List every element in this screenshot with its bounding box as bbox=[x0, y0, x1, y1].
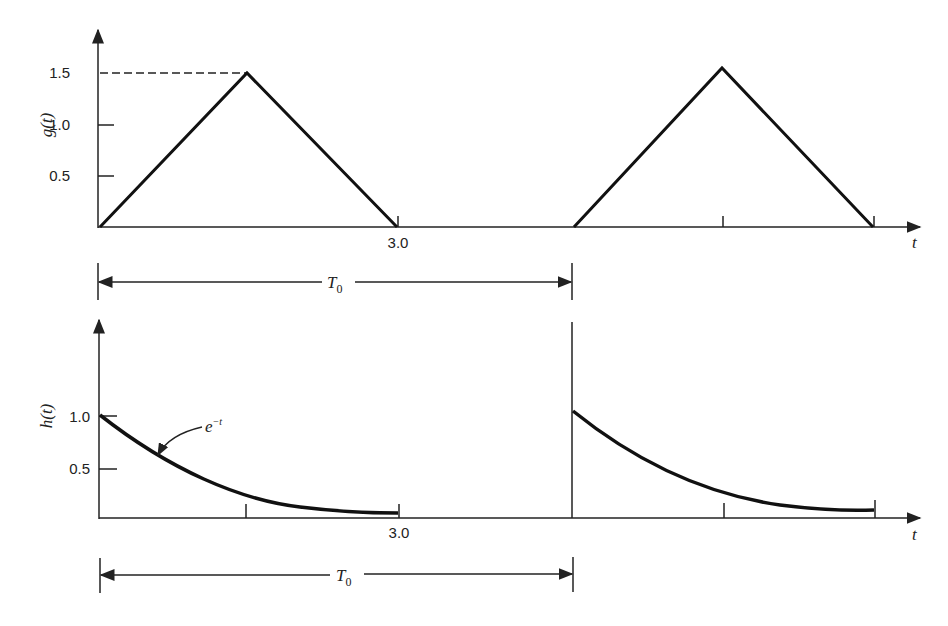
h-curve-label: e−t bbox=[205, 416, 222, 436]
h-plot: 1.0 0.5 h(t) 3.0 t e−t bbox=[37, 320, 920, 544]
g-period-bracket: T0 bbox=[98, 263, 572, 300]
g-y-label: g(t) bbox=[37, 112, 56, 137]
h-ytick-label-1.0: 1.0 bbox=[69, 408, 90, 425]
g-ytick-label-0.5: 0.5 bbox=[49, 167, 70, 184]
h-exp-curve-1 bbox=[100, 415, 398, 513]
g-x-label: t bbox=[912, 233, 918, 252]
h-xtick-label-3: 3.0 bbox=[389, 524, 410, 541]
h-period-bracket: T0 bbox=[100, 557, 573, 593]
g-pulse-2 bbox=[574, 68, 873, 227]
h-curve-label-arrow bbox=[158, 427, 202, 455]
h-period-label: T0 bbox=[336, 566, 351, 589]
h-y-label: h(t) bbox=[37, 403, 56, 428]
g-period-label: T0 bbox=[327, 273, 342, 296]
g-pulse-1 bbox=[100, 73, 397, 227]
h-ytick-label-0.5: 0.5 bbox=[69, 460, 90, 477]
g-plot: 1.5 1.0 0.5 g(t) 3.0 t bbox=[37, 30, 920, 252]
g-xtick-label-3: 3.0 bbox=[388, 234, 409, 251]
g-ytick-label-1.5: 1.5 bbox=[49, 64, 70, 81]
h-exp-curve-2 bbox=[573, 411, 874, 510]
figure: 1.5 1.0 0.5 g(t) 3.0 t T0 1.0 0.5 h(t) 3 bbox=[0, 0, 948, 626]
h-x-label: t bbox=[912, 525, 918, 544]
